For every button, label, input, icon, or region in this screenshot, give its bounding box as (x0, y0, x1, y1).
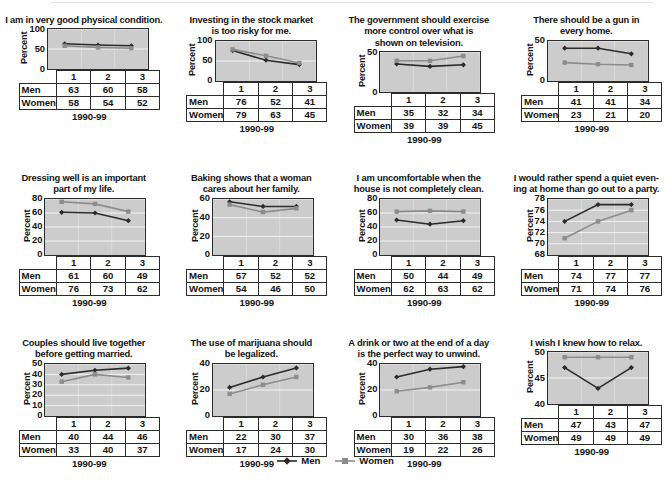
data-cell: 47 (559, 419, 593, 432)
table-row: 123 (187, 82, 327, 95)
table-row: 123 (522, 82, 662, 95)
square-marker (227, 202, 231, 206)
y-axis-label: Percent (21, 363, 32, 415)
series-row-label: Men (19, 430, 56, 443)
diamond-marker (126, 218, 131, 223)
data-table: 123Men575252Women544650 (186, 256, 327, 296)
data-cell: 60 (91, 84, 125, 97)
diamond-marker (428, 366, 433, 371)
table-corner-cell (19, 71, 56, 84)
plot-area: Percent100500 (186, 40, 317, 82)
table-row: 123 (19, 71, 159, 84)
x-tick-label: 3 (628, 82, 662, 95)
diamond-marker (428, 221, 433, 226)
series-row-label: Women (354, 120, 391, 133)
data-cell: 76 (628, 282, 662, 295)
table-row: Men303638 (354, 430, 494, 443)
data-cell: 79 (224, 108, 258, 121)
square-marker (596, 355, 600, 359)
plot-canvas (212, 198, 314, 256)
x-tick-label: 2 (91, 256, 125, 269)
plot-area: Percent504540 (524, 351, 649, 405)
series-row-label: Men (354, 107, 391, 120)
data-cell: 45 (293, 108, 327, 121)
x-tick-label: 2 (593, 406, 627, 419)
data-cell: 74 (593, 282, 627, 295)
table-row: Men765241 (187, 95, 327, 108)
legend-label-women: Women (359, 455, 393, 466)
series-row-label: Women (187, 108, 224, 121)
data-cell: 76 (224, 95, 258, 108)
y-axis-ticks: 500 (535, 40, 547, 80)
diamond-marker (562, 45, 567, 50)
y-tick-label: 20 (200, 385, 210, 392)
y-tick-label: 50 (202, 56, 212, 63)
square-marker (395, 389, 399, 393)
data-cell: 46 (258, 282, 292, 295)
square-marker (127, 209, 131, 213)
data-cell: 49 (125, 269, 159, 282)
y-axis-label: Percent (524, 40, 535, 80)
y-tick-label: 40 (32, 222, 42, 229)
y-axis-label: Percent (189, 363, 200, 415)
series-row-label: Women (19, 282, 56, 295)
plot-area: Percent100500 (18, 28, 149, 70)
diamond-marker (595, 202, 600, 207)
table-row: Men747777 (522, 269, 662, 282)
table-corner-cell (354, 94, 391, 107)
x-axis-label: 1990-99 (357, 297, 491, 308)
data-cell: 63 (258, 108, 292, 121)
plot-canvas (379, 51, 481, 93)
square-marker (462, 209, 466, 213)
data-table: 123Men353234Women393945 (354, 93, 495, 133)
series-row-label: Men (187, 430, 224, 443)
plot-area: Percent6040200 (189, 198, 314, 256)
table-row: Men504449 (354, 269, 494, 282)
x-tick-label: 3 (293, 256, 327, 269)
x-tick-label: 2 (426, 94, 460, 107)
data-cell: 44 (426, 269, 460, 282)
chart-panel: Dressing well is an important part of my… (0, 172, 168, 337)
data-cell: 52 (125, 97, 159, 110)
square-marker (261, 382, 265, 386)
y-axis-ticks: 806040200 (32, 198, 44, 254)
data-table: 123Men223037Women172430 (186, 417, 327, 457)
table-row: Men414134 (522, 95, 662, 108)
plot-canvas (547, 351, 649, 405)
small-multiples-grid: I am in very good physical condition.Per… (0, 14, 670, 482)
data-cell: 57 (224, 269, 258, 282)
series-row-label: Women (522, 108, 559, 121)
data-cell: 34 (460, 107, 494, 120)
data-cell: 77 (628, 269, 662, 282)
series-row-label: Men (522, 95, 559, 108)
y-tick-label: 74 (535, 217, 545, 224)
data-cell: 52 (258, 269, 292, 282)
x-tick-label: 3 (628, 406, 662, 419)
data-cell: 41 (293, 95, 327, 108)
y-tick-label: 80 (32, 194, 42, 201)
diamond-marker (126, 365, 131, 370)
square-marker (230, 47, 234, 51)
data-cell: 49 (460, 269, 494, 282)
data-cell: 73 (91, 282, 125, 295)
square-marker (227, 392, 231, 396)
y-axis-label: Percent (186, 40, 197, 80)
series-row-label: Women (522, 432, 559, 445)
y-axis-label: Percent (356, 51, 367, 91)
plot-area: Percent806040200 (356, 198, 481, 256)
series-row-label: Men (19, 84, 56, 97)
x-tick-label: 3 (460, 94, 494, 107)
legend-item-men: Men (276, 455, 320, 466)
data-cell: 40 (56, 430, 90, 443)
table-row: 123 (187, 417, 327, 430)
x-tick-label: 2 (593, 256, 627, 269)
square-marker (428, 209, 432, 213)
data-cell: 52 (258, 95, 292, 108)
diamond-marker (461, 364, 466, 369)
data-cell: 39 (426, 120, 460, 133)
data-cell: 74 (559, 269, 593, 282)
chart-panel: Investing in the stock market is too ris… (168, 14, 336, 172)
table-row: Women626362 (354, 282, 494, 295)
data-cell: 22 (224, 430, 258, 443)
data-cell: 34 (628, 95, 662, 108)
